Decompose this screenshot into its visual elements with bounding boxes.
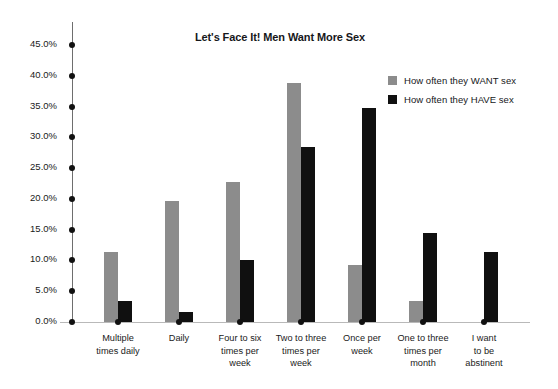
- plot-area: 0.0%5.0%10.0%15.0%20.0%25.0%30.0%35.0%40…: [0, 0, 558, 389]
- y-axis-tick-label: 15.0%: [30, 223, 57, 234]
- x-axis-category-label-line: Four to six: [206, 332, 274, 345]
- y-axis-tick-dot-icon: [69, 165, 75, 171]
- y-axis-tick-label: 10.0%: [30, 253, 57, 264]
- x-axis-category-label-line: to be: [450, 345, 518, 358]
- x-axis-category-label-line: One to three: [389, 332, 457, 345]
- y-axis-tick-dot-icon: [69, 257, 75, 263]
- y-axis-tick-dot-icon: [69, 104, 75, 110]
- x-axis-category-label-line: Once per: [328, 332, 396, 345]
- x-axis-category-label-line: times per: [389, 345, 457, 358]
- x-axis-category-label: Once perweek: [328, 332, 396, 357]
- x-axis-category-label: Two to threetimes perweek: [267, 332, 335, 370]
- x-axis-category-label-line: Daily: [145, 332, 213, 345]
- x-axis-category-label-line: week: [206, 357, 274, 370]
- bar: [118, 301, 132, 322]
- bar: [226, 182, 240, 322]
- y-axis-tick-label: 35.0%: [30, 100, 57, 111]
- bar: [301, 147, 315, 322]
- x-axis-category-dot-icon: [420, 319, 426, 325]
- x-axis-category-label: Four to sixtimes perweek: [206, 332, 274, 370]
- y-axis-tick-label: 40.0%: [30, 69, 57, 80]
- x-axis-category-label: Daily: [145, 332, 213, 345]
- y-axis-tick-label: 0.0%: [35, 315, 57, 326]
- bar: [165, 201, 179, 322]
- x-axis-baseline: [60, 322, 530, 323]
- x-axis-category-dot-icon: [359, 319, 365, 325]
- bar: [362, 108, 376, 322]
- bar: [287, 83, 301, 322]
- x-axis-category-label-line: times per: [267, 345, 335, 358]
- x-axis-category-dot-icon: [115, 319, 121, 325]
- bar: [423, 233, 437, 322]
- bar: [484, 252, 498, 322]
- bar-chart: Let's Face It! Men Want More Sex How oft…: [0, 0, 558, 389]
- x-axis-category-dot-icon: [298, 319, 304, 325]
- y-axis-tick-dot-icon: [69, 227, 75, 233]
- y-axis-tick-dot-icon: [69, 73, 75, 79]
- y-axis-tick-dot-icon: [69, 319, 75, 325]
- y-axis-tick-label: 25.0%: [30, 161, 57, 172]
- y-axis-tick-dot-icon: [69, 134, 75, 140]
- bar: [104, 252, 118, 322]
- x-axis-category-dot-icon: [237, 319, 243, 325]
- x-axis-category-label-line: week: [328, 345, 396, 358]
- y-axis-tick-dot-icon: [69, 288, 75, 294]
- y-axis-tick-dot-icon: [69, 196, 75, 202]
- x-axis-category-label-line: abstinent: [450, 357, 518, 370]
- bar: [348, 265, 362, 322]
- y-axis-line: [72, 22, 73, 324]
- y-axis-tick-label: 30.0%: [30, 130, 57, 141]
- y-axis-tick-label: 20.0%: [30, 192, 57, 203]
- x-axis-category-label-line: Two to three: [267, 332, 335, 345]
- y-axis-tick-dot-icon: [69, 42, 75, 48]
- x-axis-category-label-line: month: [389, 357, 457, 370]
- x-axis-category-label-line: times per: [206, 345, 274, 358]
- x-axis-category-label: One to threetimes permonth: [389, 332, 457, 370]
- y-axis-tick-label: 5.0%: [35, 284, 57, 295]
- x-axis-category-label-line: times daily: [84, 345, 152, 358]
- x-axis-category-label: I wantto beabstinent: [450, 332, 518, 370]
- x-axis-category-label-line: week: [267, 357, 335, 370]
- x-axis-category-dot-icon: [176, 319, 182, 325]
- x-axis-category-dot-icon: [481, 319, 487, 325]
- x-axis-category-label-line: Multiple: [84, 332, 152, 345]
- bar: [240, 260, 254, 322]
- x-axis-category-label: Multipletimes daily: [84, 332, 152, 357]
- y-axis-tick-label: 45.0%: [30, 38, 57, 49]
- x-axis-category-label-line: I want: [450, 332, 518, 345]
